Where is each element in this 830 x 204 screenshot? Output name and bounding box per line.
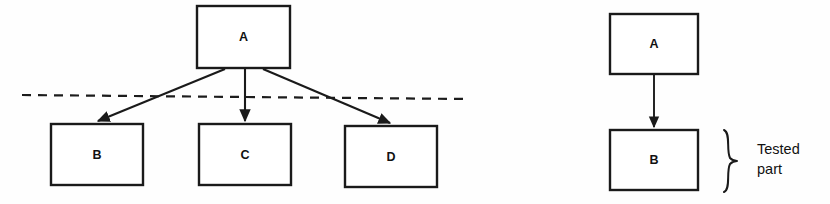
- curly-brace: [724, 130, 737, 192]
- tested-part-line-2: part: [757, 161, 782, 177]
- node-c-left: C: [199, 124, 291, 185]
- tested-part-line-1: Tested: [757, 141, 800, 157]
- node-b-right: B: [610, 130, 698, 190]
- node-b-left-label: B: [92, 148, 101, 162]
- edge-a-to-d: [263, 69, 390, 123]
- right-diagram: A B Tested part: [610, 14, 800, 192]
- figure-canvas: A B C D A: [0, 0, 830, 204]
- edge-a-to-b: [98, 69, 225, 121]
- tested-part-annotation: Tested part: [757, 141, 800, 177]
- node-a-left-label: A: [239, 30, 248, 44]
- node-a-left: A: [197, 6, 290, 68]
- node-d-left-label: D: [386, 150, 395, 164]
- node-d-left: D: [345, 126, 437, 187]
- node-a-right: A: [610, 14, 698, 74]
- node-c-left-label: C: [240, 148, 249, 162]
- node-a-right-label: A: [649, 37, 658, 51]
- diagram-svg: A B C D A: [0, 0, 830, 204]
- node-b-left: B: [51, 124, 143, 185]
- left-diagram: A B C D: [22, 6, 466, 187]
- node-b-right-label: B: [649, 153, 658, 167]
